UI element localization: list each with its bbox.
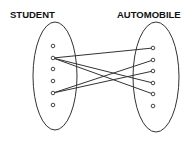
mapping-line [53,58,153,83]
student-elements [51,44,55,107]
mapping-diagram [0,0,196,141]
automobile-elements [151,46,155,108]
mapping-line [53,60,153,93]
automobile-set-ellipse [133,22,179,132]
student-element-dot [51,67,55,71]
automobile-element-dot [151,81,155,85]
mapping-line [53,48,153,58]
automobile-element-dot [151,104,155,108]
mapping-lines [53,48,153,94]
mapping-line [53,71,153,93]
automobile-element-dot [151,46,155,50]
student-element-dot [51,56,55,60]
student-element-dot [51,44,55,48]
automobile-element-dot [151,58,155,62]
student-element-dot [51,79,55,83]
student-element-dot [51,103,55,107]
automobile-element-dot [151,69,155,73]
student-set-ellipse [33,22,77,130]
automobile-element-dot [151,92,155,96]
student-element-dot [51,91,55,95]
